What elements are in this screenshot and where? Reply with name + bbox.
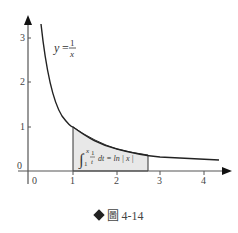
y-tick-1: 1 [20, 121, 25, 132]
x-tick-2: 2 [114, 175, 119, 186]
svg-text:dt = ln | x |: dt = ln | x | [98, 154, 134, 163]
svg-text:x: x [69, 49, 74, 59]
x-tick-3: 3 [157, 175, 162, 186]
y-tick-3: 3 [20, 32, 25, 43]
svg-text:y: y [53, 41, 60, 55]
curve-label: y = 1 x [53, 38, 76, 59]
figure-caption: 圖 4-14 [0, 206, 238, 224]
x-axis-arrow-icon [222, 167, 232, 175]
x-ticks [73, 171, 204, 175]
svg-text:=: = [62, 41, 69, 55]
chart-figure: 0 1 2 3 4 0 1 2 3 y = 1 x ∫ x 1 1 t dt =… [0, 0, 238, 200]
caption-text: 圖 4-14 [107, 209, 144, 223]
svg-text:1: 1 [70, 38, 75, 48]
svg-text:1: 1 [84, 160, 88, 168]
y-axis-arrow-icon [24, 15, 32, 25]
svg-text:1: 1 [91, 149, 95, 157]
x-tick-1: 1 [70, 175, 75, 186]
x-tick-0: 0 [32, 175, 37, 186]
x-tick-4: 4 [201, 175, 206, 186]
diamond-icon [93, 209, 104, 220]
y-tick-0: 0 [17, 160, 22, 171]
y-tick-2: 2 [20, 76, 25, 87]
